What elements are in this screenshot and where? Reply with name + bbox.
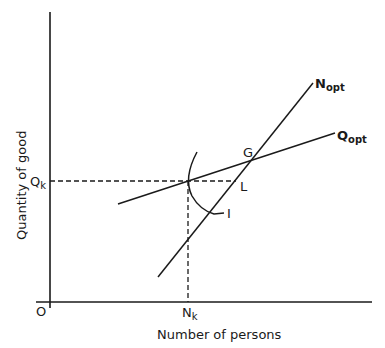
- curve-i-label: I: [227, 206, 231, 221]
- q-opt-label: Qopt: [337, 128, 367, 145]
- x-axis-title: Number of persons: [157, 327, 282, 342]
- diagram: Nopt Qopt G L I Qk Nk O Number of person…: [0, 0, 385, 348]
- indifference-curve-i: [188, 152, 224, 214]
- n-opt-line: [158, 83, 313, 277]
- nk-label: Nk: [182, 305, 198, 322]
- point-l-label: L: [240, 179, 248, 194]
- q-opt-line: [118, 133, 335, 204]
- y-axis-title: Quantity of good: [14, 131, 29, 240]
- point-g-label: G: [243, 145, 253, 160]
- origin-label: O: [36, 304, 46, 319]
- n-opt-label: Nopt: [315, 76, 345, 93]
- qk-label: Qk: [30, 174, 46, 191]
